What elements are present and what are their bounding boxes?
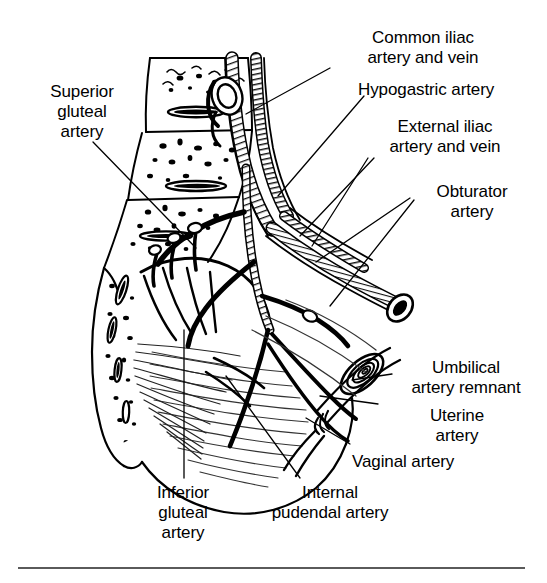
external-iliac-vessels [266, 208, 418, 327]
label-inferior-gluteal-artery: Inferior gluteal artery [121, 483, 245, 543]
leader-obturator [316, 198, 410, 262]
label-superior-gluteal-artery: Superior gluteal artery [14, 82, 150, 142]
label-common-iliac: Common iliac artery and vein [328, 28, 518, 68]
leader-superior-gluteal [93, 142, 196, 248]
cancellous-bone-stipple-2 [147, 139, 235, 191]
piriformis-striations [134, 344, 240, 459]
label-obturator-artery: Obturator artery [404, 182, 540, 222]
ilium-stipple [105, 274, 140, 447]
label-vaginal-artery: Vaginal artery [352, 452, 532, 472]
anatomy-figure: Superior gluteal artery Common iliac art… [0, 0, 547, 583]
footer-divider [18, 567, 525, 569]
label-internal-pudendal-artery: Internal pudendal artery [230, 483, 430, 523]
label-umbilical-artery-remnant: Umbilical artery remnant [390, 358, 542, 398]
label-hypogastric-artery: Hypogastric artery [358, 80, 544, 100]
leader-external-iliac [300, 158, 374, 236]
levator-ani-striations [150, 352, 308, 487]
label-uterine-artery: Uterine artery [394, 406, 520, 446]
label-external-iliac: External iliac artery and vein [350, 117, 540, 157]
leader-uterine [320, 396, 378, 404]
vaginal-artery-vessel [268, 344, 348, 441]
